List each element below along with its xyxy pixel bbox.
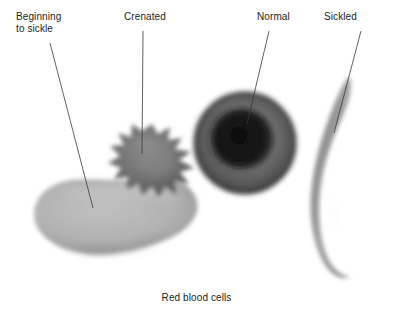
label-beginning-to-sickle: Beginning to sickle [16,11,61,34]
cells-illustration [0,0,393,311]
label-normal: Normal [257,11,290,23]
sickled-cell [310,76,350,278]
label-crenated: Crenated [124,11,166,23]
figure-caption: Red blood cells [0,292,393,303]
red-blood-cells-figure: Beginning to sickle Crenated Normal Sick… [0,0,393,311]
leader-sickled [334,31,361,133]
label-sickled: Sickled [324,11,357,23]
normal-cell [195,93,295,193]
